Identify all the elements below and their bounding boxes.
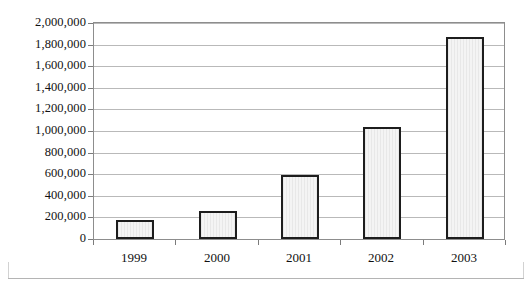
y-axis-tick-mark	[88, 217, 93, 218]
x-axis-tick-label-2003: 2003	[423, 251, 505, 264]
bar-2000	[199, 211, 237, 239]
y-axis-tick-mark	[88, 23, 93, 24]
x-axis-tick-label-1999: 1999	[93, 251, 175, 264]
x-axis-tick-label-2000: 2000	[176, 251, 258, 264]
plot-area	[93, 22, 505, 240]
y-axis-tick-label: 400,000	[0, 189, 86, 202]
bar-2003	[446, 37, 484, 239]
y-axis-tick-mark	[88, 66, 93, 67]
x-axis-tick-label-2002: 2002	[340, 251, 422, 264]
y-axis-tick-mark	[88, 196, 93, 197]
y-axis-tick-mark	[88, 174, 93, 175]
bars-layer	[94, 23, 504, 239]
x-axis-tick-mark	[258, 240, 259, 245]
bar-2002	[363, 127, 401, 239]
frame-bottom-rule	[8, 278, 524, 279]
y-axis-tick-label: 600,000	[0, 167, 86, 180]
x-axis-tick-label-2001: 2001	[258, 251, 340, 264]
y-axis-tick-label: 0	[0, 232, 86, 245]
y-axis-tick-label: 1,800,000	[0, 38, 86, 51]
y-axis-tick-label: 1,400,000	[0, 81, 86, 94]
x-axis-tick-mark	[93, 240, 94, 245]
x-axis-tick-mark	[505, 240, 506, 245]
y-axis-tick-label: 2,000,000	[0, 16, 86, 29]
y-axis-tick-mark	[88, 88, 93, 89]
x-axis-tick-mark	[175, 240, 176, 245]
y-axis-tick-mark	[88, 153, 93, 154]
bar-1999	[116, 220, 154, 239]
frame-right-rule	[523, 262, 524, 279]
y-axis-labels: 0200,000400,000600,000800,0001,000,0001,…	[0, 22, 86, 240]
y-axis-tick-mark	[88, 131, 93, 132]
frame-left-rule	[8, 262, 9, 279]
bar-chart-figure: 0200,000400,000600,000800,0001,000,0001,…	[0, 0, 532, 289]
x-axis-tick-mark	[423, 240, 424, 245]
bar-2001	[281, 175, 319, 239]
y-axis-tick-label: 800,000	[0, 146, 86, 159]
y-axis-tick-label: 1,600,000	[0, 59, 86, 72]
y-axis-tick-label: 200,000	[0, 210, 86, 223]
y-axis-tick-mark	[88, 45, 93, 46]
y-axis-tick-label: 1,000,000	[0, 124, 86, 137]
x-axis-tick-mark	[340, 240, 341, 245]
y-axis-tick-label: 1,200,000	[0, 102, 86, 115]
y-axis-tick-mark	[88, 109, 93, 110]
